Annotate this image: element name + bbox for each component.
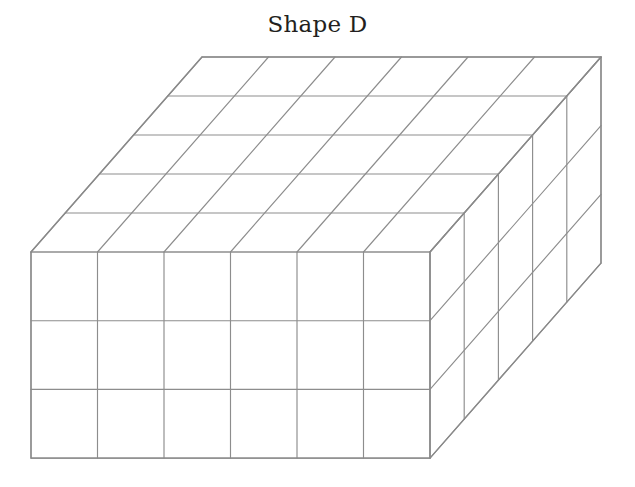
figure-root: Shape D [0, 0, 635, 487]
cube-stack-diagram [0, 0, 635, 487]
face-fills [31, 57, 601, 458]
